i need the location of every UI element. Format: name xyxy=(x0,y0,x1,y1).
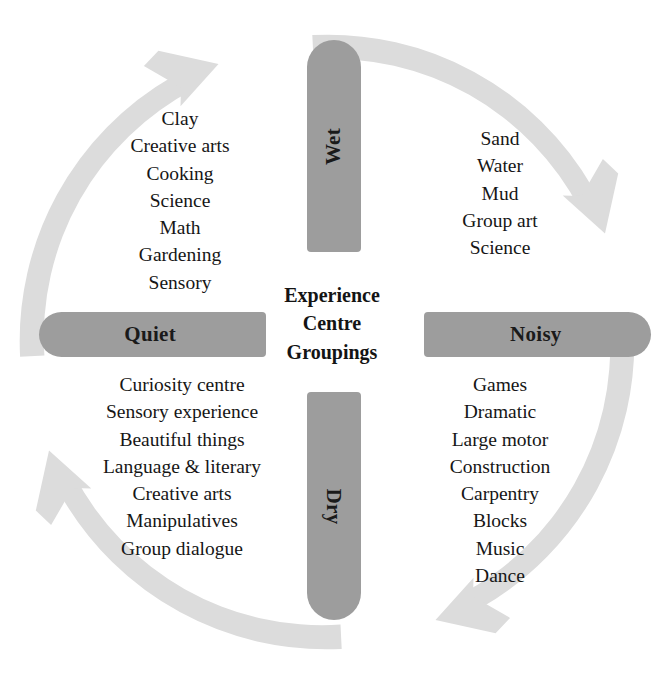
centre-title-line-2: Centre xyxy=(272,309,392,337)
quadrant-term: Creative arts xyxy=(70,480,294,507)
quadrant-term: Water xyxy=(400,152,600,179)
quadrant-term: Games xyxy=(400,371,600,398)
quadrant-term: Carpentry xyxy=(400,480,600,507)
quadrant-term: Science xyxy=(400,234,600,261)
centre-title-line-3: Groupings xyxy=(272,338,392,366)
axis-label-wet: Wet xyxy=(322,127,347,164)
quadrant-term: Sensory xyxy=(80,269,280,296)
experience-centre-groupings-diagram: Wet Dry Quiet Noisy Experience Centre Gr… xyxy=(0,0,654,684)
quadrant-term: Large motor xyxy=(400,426,600,453)
quadrant-term: Clay xyxy=(80,105,280,132)
quadrant-term: Blocks xyxy=(400,507,600,534)
quadrant-list-dry-quiet: Curiosity centreSensory experienceBeauti… xyxy=(70,371,294,562)
quadrant-term: Group art xyxy=(400,207,600,234)
axis-label-quiet: Quiet xyxy=(124,322,176,347)
quadrant-list-wet-quiet: ClayCreative artsCookingScienceMathGarde… xyxy=(80,105,280,296)
quadrant-list-wet-noisy: SandWaterMudGroup artScience xyxy=(400,125,600,261)
quadrant-term: Dramatic xyxy=(400,398,600,425)
quadrant-term: Cooking xyxy=(80,160,280,187)
quadrant-term: Music xyxy=(400,535,600,562)
quadrant-term: Manipulatives xyxy=(70,507,294,534)
quadrant-list-dry-noisy: GamesDramaticLarge motorConstructionCarp… xyxy=(400,371,600,589)
quadrant-term: Science xyxy=(80,187,280,214)
quadrant-term: Sensory experience xyxy=(70,398,294,425)
quadrant-term: Dance xyxy=(400,562,600,589)
quadrant-term: Mud xyxy=(400,180,600,207)
axis-label-noisy: Noisy xyxy=(510,322,562,347)
axis-bar-noisy: Noisy xyxy=(424,312,651,357)
quadrant-term: Creative arts xyxy=(80,132,280,159)
quadrant-term: Curiosity centre xyxy=(70,371,294,398)
quadrant-term: Sand xyxy=(400,125,600,152)
axis-bar-quiet: Quiet xyxy=(39,312,266,357)
axis-bar-wet: Wet xyxy=(307,40,361,252)
quadrant-term: Group dialogue xyxy=(70,535,294,562)
centre-title: Experience Centre Groupings xyxy=(272,281,392,366)
quadrant-term: Gardening xyxy=(80,241,280,268)
quadrant-term: Beautiful things xyxy=(70,426,294,453)
quadrant-term: Math xyxy=(80,214,280,241)
axis-bar-dry: Dry xyxy=(307,392,361,620)
quadrant-term: Language & literary xyxy=(70,453,294,480)
centre-title-line-1: Experience xyxy=(272,281,392,309)
quadrant-term: Construction xyxy=(400,453,600,480)
axis-label-dry: Dry xyxy=(321,488,346,524)
